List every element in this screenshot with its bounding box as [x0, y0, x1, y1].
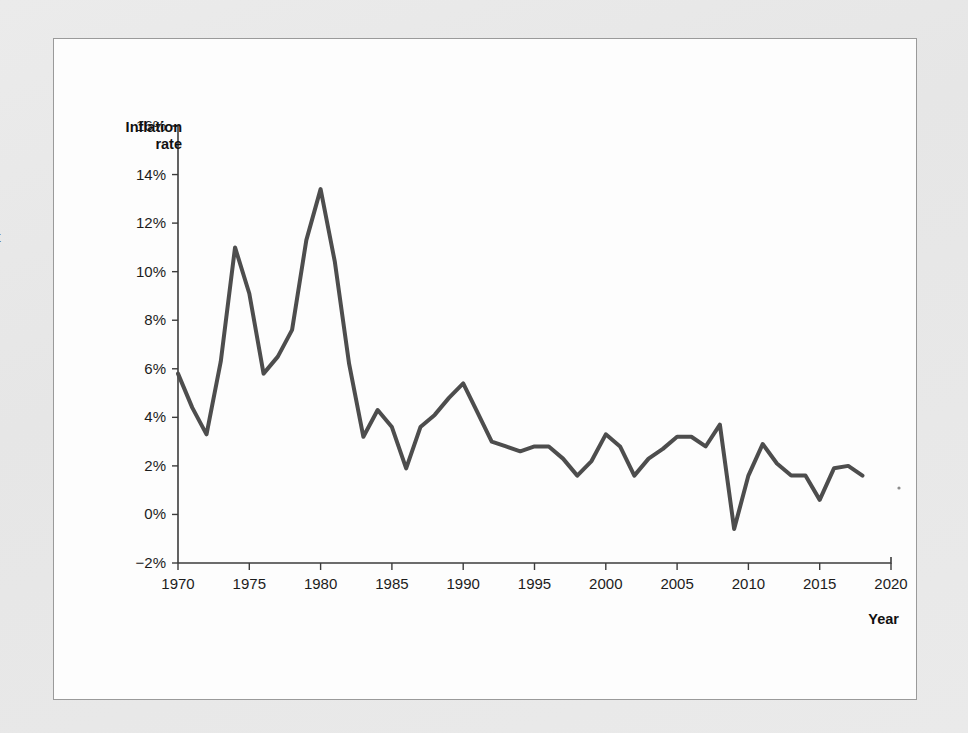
x-tick-label: 2020: [874, 575, 907, 592]
x-tick-label: 1980: [304, 575, 337, 592]
margin-text-fragment: t: [0, 228, 1, 245]
x-tick-label: 1975: [233, 575, 266, 592]
x-tick-label: 1990: [447, 575, 480, 592]
inflation-rate-line-chart: −2%0%2%4%6%8%10%12%14%16% 19701975198019…: [54, 39, 916, 699]
x-tick-label: 2010: [732, 575, 765, 592]
y-axis-title-line1: Inflation: [126, 119, 182, 135]
y-tick-label: 8%: [144, 311, 166, 328]
x-axis-title: Year: [868, 611, 899, 627]
y-axis-title-line2: rate: [155, 136, 182, 152]
x-axis-ticks: 1970197519801985199019952000200520102015…: [161, 563, 907, 592]
x-tick-label: 1985: [375, 575, 408, 592]
y-tick-label: 4%: [144, 408, 166, 425]
y-tick-label: 2%: [144, 457, 166, 474]
chart-axes: [173, 126, 891, 563]
y-tick-label: 0%: [144, 505, 166, 522]
y-tick-label: −2%: [136, 554, 166, 571]
figure-frame: −2%0%2%4%6%8%10%12%14%16% 19701975198019…: [53, 38, 917, 700]
y-tick-label: 14%: [136, 166, 166, 183]
y-tick-label: 12%: [136, 214, 166, 231]
x-tick-label: 2000: [589, 575, 622, 592]
inflation-rate-series-line: [178, 189, 862, 529]
y-axis-line: [173, 126, 178, 563]
y-tick-label: 6%: [144, 360, 166, 377]
x-tick-label: 1995: [518, 575, 551, 592]
x-tick-label: 2005: [660, 575, 693, 592]
y-axis-ticks: −2%0%2%4%6%8%10%12%14%16%: [136, 117, 178, 571]
x-tick-label: 1970: [161, 575, 194, 592]
x-axis-line: [178, 557, 891, 563]
page-background: t −2%0%2%4%6%8%10%12%14%16% 197019751980…: [0, 0, 968, 733]
scan-speck: [897, 486, 900, 489]
x-tick-label: 2015: [803, 575, 836, 592]
y-tick-label: 10%: [136, 263, 166, 280]
